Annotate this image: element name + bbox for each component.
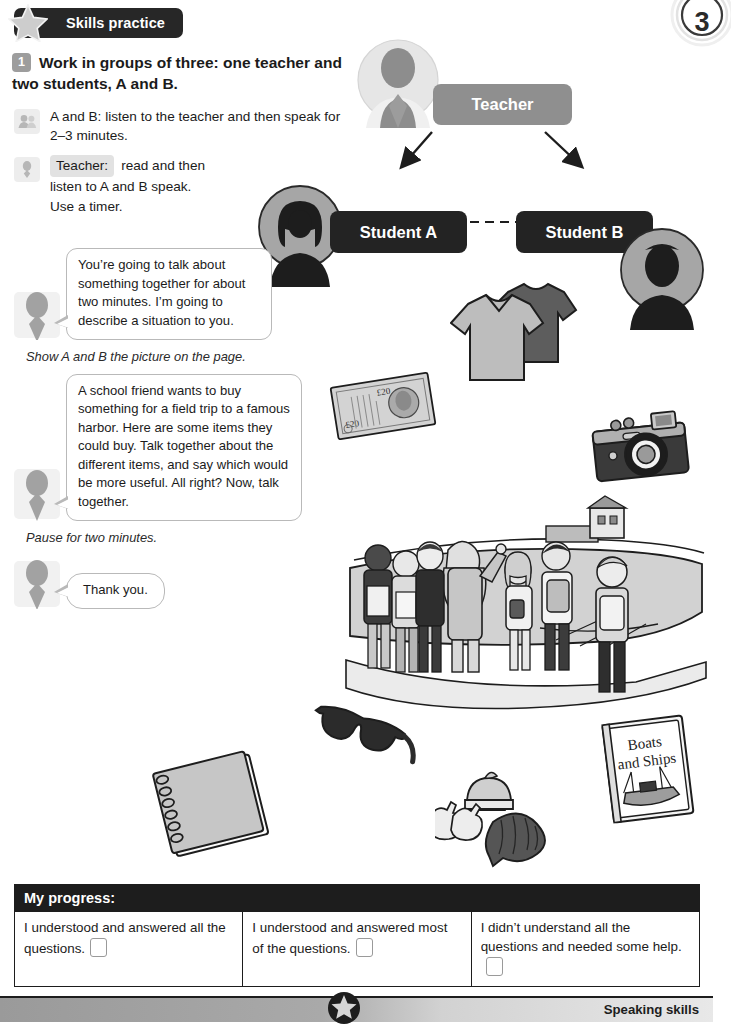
spiral-notebook xyxy=(150,750,278,860)
teacher-note-text: Teacher:read and then listen to A and B … xyxy=(50,155,205,216)
two-people-icon xyxy=(14,109,40,134)
script-line-1: You’re going to talk about something tog… xyxy=(12,248,352,339)
harbor-students-left xyxy=(364,542,444,672)
progress-option-3: I didn’t understand all the questions an… xyxy=(471,912,699,986)
instructions-column: 1Work in groups of three: one teacher an… xyxy=(12,52,352,609)
students-note-text: A and B: listen to the teacher and then … xyxy=(50,107,352,146)
banner-title: Skills practice xyxy=(66,15,165,31)
teacher-note-row: Teacher:read and then listen to A and B … xyxy=(12,155,352,216)
speech-bubble-2: A school friend wants to buy something f… xyxy=(66,374,302,521)
speech-bubble-3: Thank you. xyxy=(66,573,165,609)
speech-bubble-3-text: Thank you. xyxy=(83,582,148,597)
star-icon xyxy=(8,4,48,42)
teacher-role-label: Teacher xyxy=(471,95,533,114)
students-note-row: A and B: listen to the teacher and then … xyxy=(12,107,352,146)
stage-direction-1: Show A and B the picture on the page. xyxy=(26,349,352,364)
arrow-down-left-icon xyxy=(404,132,432,164)
speaker-avatar-icon xyxy=(12,557,62,609)
speech-bubble-1: You’re going to talk about something tog… xyxy=(66,248,272,339)
progress-checkbox-1[interactable] xyxy=(90,938,107,957)
page-number: 3 xyxy=(679,2,725,42)
task-number: 1 xyxy=(12,53,31,72)
student-a-role-label: Student A xyxy=(360,223,437,242)
star-icon xyxy=(326,990,362,1026)
camera xyxy=(588,405,692,485)
book-boats-and-ships: Boats and Ships xyxy=(598,710,698,830)
school-group-at-harbor xyxy=(340,490,712,720)
my-progress-title: My progress: xyxy=(15,885,699,912)
sunglasses xyxy=(305,700,425,780)
script-line-3: Thank you. xyxy=(12,557,352,609)
arrow-down-right-icon xyxy=(545,132,579,164)
progress-checkbox-2[interactable] xyxy=(356,938,373,957)
page-footer: Speaking skills xyxy=(0,992,713,1022)
my-progress-table: My progress: I understood and answered a… xyxy=(14,884,700,987)
speaker-avatar-icon xyxy=(12,459,62,521)
progress-option-1: I understood and answered all the questi… xyxy=(15,912,242,986)
hat-gloves-scarf xyxy=(435,760,555,870)
progress-option-2-label: I understood and answered most of the qu… xyxy=(252,920,447,956)
speech-bubble-2-text: A school friend wants to buy something f… xyxy=(78,383,290,509)
task-heading-text: Work in groups of three: one teacher and… xyxy=(12,54,342,92)
progress-checkbox-3[interactable] xyxy=(486,957,503,976)
progress-option-2: I understood and answered most of the qu… xyxy=(242,912,470,986)
teacher-avatar-icon xyxy=(356,36,440,128)
harbor-students-right xyxy=(505,542,628,692)
my-progress-options: I understood and answered all the questi… xyxy=(15,912,699,986)
speaker-avatar-icon xyxy=(12,288,62,340)
page-number-badge: 3 xyxy=(665,0,731,52)
script-line-2: A school friend wants to buy something f… xyxy=(12,374,352,521)
student-b-avatar-icon xyxy=(620,224,704,330)
teacher-note-line1: read and then xyxy=(121,158,205,173)
stage-direction-2: Pause for two minutes. xyxy=(26,530,352,545)
footer-skill-label: Speaking skills xyxy=(604,1002,699,1017)
task-heading: 1Work in groups of three: one teacher an… xyxy=(12,52,352,95)
speech-bubble-1-text: You’re going to talk about something tog… xyxy=(78,257,245,328)
student-b-role-label: Student B xyxy=(546,223,624,242)
teacher-tag: Teacher: xyxy=(50,155,114,177)
progress-option-1-label: I understood and answered all the questi… xyxy=(24,920,226,956)
progress-option-3-label: I didn’t understand all the questions an… xyxy=(481,920,682,954)
person-icon xyxy=(14,157,40,182)
teacher-note-line3: Use a timer. xyxy=(50,199,123,214)
teacher-note-line2: listen to A and B speak. xyxy=(50,179,191,194)
